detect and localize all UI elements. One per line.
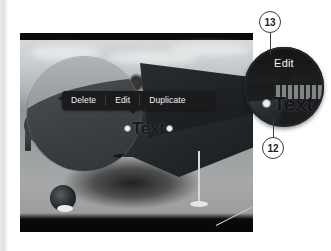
- magnifier-left: [27, 57, 141, 171]
- context-menu-pointer-icon: [128, 109, 138, 114]
- magnified-edit-label[interactable]: Edit: [244, 57, 324, 69]
- text-object-label: Text: [132, 120, 165, 137]
- callout-badge-12: 12: [262, 137, 284, 159]
- context-menu[interactable]: Delete Edit Duplicate: [62, 91, 215, 110]
- strut-foot: [190, 201, 208, 207]
- magnified-text-object[interactable]: Text: [262, 93, 313, 114]
- magnifier-right: Edit Text: [244, 47, 324, 127]
- page-gutter-edge: [7, 0, 8, 251]
- page-gutter: [0, 0, 7, 251]
- callout-leader-13: [270, 33, 271, 55]
- selection-handle-left-icon[interactable]: [124, 125, 131, 132]
- callout-leader-12: [273, 118, 274, 138]
- magnified-selection-handle-icon[interactable]: [262, 99, 271, 108]
- magnified-text-label: Text: [273, 93, 313, 114]
- aircraft-strut: [198, 151, 200, 203]
- wheel-chock: [57, 205, 73, 212]
- magnifier-left-content: [27, 57, 141, 171]
- text-object[interactable]: Text: [124, 120, 173, 137]
- context-menu-item-edit[interactable]: Edit: [106, 91, 139, 110]
- context-menu-item-delete[interactable]: Delete: [62, 91, 105, 110]
- magnified-menu-pointer-icon: [276, 73, 294, 83]
- selection-handle-right-icon[interactable]: [166, 125, 173, 132]
- context-menu-item-duplicate[interactable]: Duplicate: [140, 91, 194, 110]
- callout-badge-13: 13: [259, 11, 281, 33]
- cloud-shape: [170, 43, 250, 56]
